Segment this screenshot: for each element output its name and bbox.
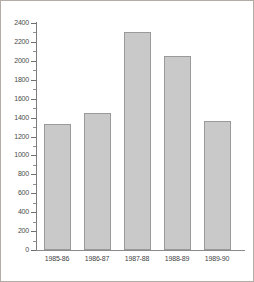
x-axis-tick-label: 1989-90 [197,255,237,262]
y-axis-tick [31,231,36,232]
y-axis-tick [31,61,36,62]
x-axis-tick-label: 1985-86 [37,255,77,262]
y-axis-tick-label: 1200 [3,133,29,140]
bar [84,113,111,250]
y-axis-tick-label: 2000 [3,57,29,64]
y-axis-tick-label: 2200 [3,38,29,45]
y-axis-minor-tick [33,51,36,52]
y-axis-tick-label: 1000 [3,151,29,158]
y-axis-tick-label: 800 [3,170,29,177]
y-axis-tick [31,23,36,24]
y-axis-tick [31,137,36,138]
y-axis-tick-label: 1800 [3,76,29,83]
y-axis-tick-label: 600 [3,189,29,196]
x-axis-tick-label: 1986-87 [77,255,117,262]
y-axis-tick-label: 200 [3,227,29,234]
chart-figure: 0200400600800100012001400160018002000220… [0,0,254,282]
y-axis-minor-tick [33,222,36,223]
y-axis-minor-tick [33,108,36,109]
y-axis-minor-tick [33,32,36,33]
y-axis-tick-label: 400 [3,208,29,215]
y-axis-tick [31,80,36,81]
x-axis-tick-label: 1987-88 [117,255,157,262]
bar [164,56,191,250]
y-axis-minor-tick [33,146,36,147]
y-axis-minor-tick [33,127,36,128]
y-axis-tick [31,118,36,119]
bar [44,124,71,250]
x-axis-line [31,250,245,251]
y-axis-tick-label: 1600 [3,95,29,102]
y-axis-tick [31,155,36,156]
y-axis-tick [31,174,36,175]
y-axis-tick [31,250,36,251]
y-axis-tick [31,193,36,194]
y-axis-tick [31,212,36,213]
y-axis-minor-tick [33,184,36,185]
x-axis-tick-label: 1988-89 [157,255,197,262]
bar [204,121,231,250]
y-axis-minor-tick [33,203,36,204]
bar [124,32,151,250]
y-axis-tick-label: 0 [3,246,29,253]
y-axis-minor-tick [33,70,36,71]
y-axis-minor-tick [33,89,36,90]
y-axis-tick-label: 1400 [3,114,29,121]
y-axis-tick [31,42,36,43]
y-axis-tick-label: 2400 [3,19,29,26]
y-axis-minor-tick [33,165,36,166]
y-axis-tick [31,99,36,100]
bars-layer [37,23,244,250]
y-axis-minor-tick [33,241,36,242]
